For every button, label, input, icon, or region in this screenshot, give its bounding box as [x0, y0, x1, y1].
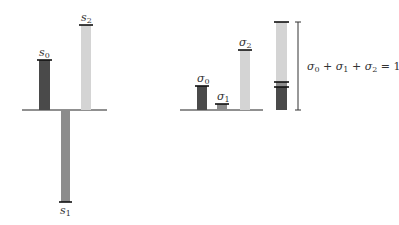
sum-equation: σ0 + σ1 + σ2 = 1 [307, 60, 399, 74]
label-sigma0: σ0 [197, 72, 210, 86]
total-bracket [295, 22, 301, 110]
bar-sigma1 [217, 104, 227, 110]
bar-sigma0 [197, 86, 207, 110]
bar-s1 [61, 110, 70, 202]
bar-s0 [39, 60, 50, 110]
label-sigma2: σ2 [239, 36, 252, 50]
stack-sigma0 [276, 87, 287, 110]
bar-sigma2 [240, 50, 250, 110]
diagram-canvas: s0 s1 s2 σ0 σ1 σ2 σ0 + σ1 + σ2 = 1 [0, 0, 399, 225]
label-sigma1: σ1 [217, 90, 230, 104]
label-s1: s1 [60, 204, 71, 218]
bar-s2 [81, 25, 91, 110]
label-s0: s0 [39, 46, 50, 60]
label-s2: s2 [81, 11, 92, 25]
stacked-bar [274, 22, 289, 110]
left-chart: s0 s1 s2 [22, 11, 107, 218]
right-chart: σ0 σ1 σ2 σ0 + σ1 + σ2 = 1 [180, 22, 399, 110]
stack-sigma2 [276, 22, 287, 82]
